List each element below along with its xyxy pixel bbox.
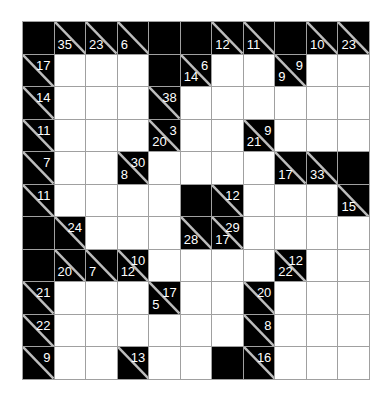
entry-cell[interactable] bbox=[275, 282, 306, 314]
entry-cell[interactable] bbox=[307, 282, 338, 314]
entry-cell[interactable] bbox=[212, 250, 243, 282]
entry-cell[interactable] bbox=[212, 315, 243, 347]
across-sum: 16 bbox=[257, 351, 271, 364]
entry-cell[interactable] bbox=[181, 282, 212, 314]
entry-cell[interactable] bbox=[55, 55, 86, 87]
entry-cell[interactable] bbox=[149, 152, 180, 184]
block-cell bbox=[149, 55, 180, 87]
clue-cell: 11 bbox=[23, 120, 54, 152]
across-sum: 9 bbox=[296, 59, 303, 72]
entry-cell[interactable] bbox=[181, 250, 212, 282]
kakuro-board: 3523612111023176149914381132092173081733… bbox=[22, 21, 370, 380]
entry-cell[interactable] bbox=[275, 347, 306, 379]
clue-cell: 11 bbox=[23, 185, 54, 217]
entry-cell[interactable] bbox=[212, 152, 243, 184]
entry-cell[interactable] bbox=[307, 87, 338, 119]
entry-cell[interactable] bbox=[307, 315, 338, 347]
entry-cell[interactable] bbox=[212, 282, 243, 314]
entry-cell[interactable] bbox=[86, 87, 117, 119]
entry-cell[interactable] bbox=[55, 347, 86, 379]
down-sum: 20 bbox=[152, 135, 166, 148]
entry-cell[interactable] bbox=[244, 152, 275, 184]
clue-cell: 10 bbox=[307, 22, 338, 54]
entry-cell[interactable] bbox=[275, 217, 306, 249]
entry-cell[interactable] bbox=[181, 87, 212, 119]
entry-cell[interactable] bbox=[118, 87, 149, 119]
entry-cell[interactable] bbox=[338, 315, 369, 347]
entry-cell[interactable] bbox=[118, 185, 149, 217]
clue-cell: 17 bbox=[275, 152, 306, 184]
clue-cell: 15 bbox=[338, 185, 369, 217]
entry-cell[interactable] bbox=[275, 185, 306, 217]
entry-cell[interactable] bbox=[307, 250, 338, 282]
across-sum: 20 bbox=[257, 286, 271, 299]
entry-cell[interactable] bbox=[55, 282, 86, 314]
entry-cell[interactable] bbox=[338, 87, 369, 119]
down-sum: 15 bbox=[341, 200, 355, 213]
entry-cell[interactable] bbox=[338, 347, 369, 379]
entry-cell[interactable] bbox=[149, 217, 180, 249]
clue-cell: 7 bbox=[23, 152, 54, 184]
entry-cell[interactable] bbox=[149, 347, 180, 379]
entry-cell[interactable] bbox=[181, 152, 212, 184]
entry-cell[interactable] bbox=[275, 315, 306, 347]
entry-cell[interactable] bbox=[149, 250, 180, 282]
entry-cell[interactable] bbox=[338, 282, 369, 314]
entry-cell[interactable] bbox=[118, 120, 149, 152]
entry-cell[interactable] bbox=[212, 87, 243, 119]
entry-cell[interactable] bbox=[118, 55, 149, 87]
entry-cell[interactable] bbox=[307, 185, 338, 217]
entry-cell[interactable] bbox=[307, 347, 338, 379]
down-sum: 20 bbox=[58, 265, 72, 278]
entry-cell[interactable] bbox=[55, 185, 86, 217]
entry-cell[interactable] bbox=[86, 217, 117, 249]
entry-cell[interactable] bbox=[307, 120, 338, 152]
clue-cell: 11 bbox=[244, 22, 275, 54]
entry-cell[interactable] bbox=[307, 217, 338, 249]
entry-cell[interactable] bbox=[118, 217, 149, 249]
entry-cell[interactable] bbox=[244, 185, 275, 217]
entry-cell[interactable] bbox=[86, 185, 117, 217]
entry-cell[interactable] bbox=[244, 250, 275, 282]
across-sum: 24 bbox=[68, 221, 82, 234]
entry-cell[interactable] bbox=[86, 315, 117, 347]
entry-cell[interactable] bbox=[55, 152, 86, 184]
clue-cell: 921 bbox=[244, 120, 275, 152]
across-sum: 17 bbox=[36, 59, 50, 72]
entry-cell[interactable] bbox=[338, 55, 369, 87]
across-sum: 11 bbox=[37, 189, 51, 202]
clue-cell: 8 bbox=[244, 315, 275, 347]
down-sum: 6 bbox=[121, 38, 128, 51]
entry-cell[interactable] bbox=[212, 55, 243, 87]
across-sum: 14 bbox=[36, 91, 50, 104]
across-sum: 9 bbox=[43, 351, 50, 364]
entry-cell[interactable] bbox=[275, 87, 306, 119]
entry-cell[interactable] bbox=[86, 120, 117, 152]
across-sum: 8 bbox=[264, 319, 271, 332]
entry-cell[interactable] bbox=[181, 315, 212, 347]
entry-cell[interactable] bbox=[55, 315, 86, 347]
entry-cell[interactable] bbox=[86, 55, 117, 87]
entry-cell[interactable] bbox=[244, 217, 275, 249]
entry-cell[interactable] bbox=[149, 185, 180, 217]
entry-cell[interactable] bbox=[118, 282, 149, 314]
block-cell bbox=[338, 152, 369, 184]
entry-cell[interactable] bbox=[212, 120, 243, 152]
entry-cell[interactable] bbox=[338, 217, 369, 249]
entry-cell[interactable] bbox=[86, 282, 117, 314]
down-sum: 17 bbox=[278, 168, 292, 181]
entry-cell[interactable] bbox=[338, 250, 369, 282]
entry-cell[interactable] bbox=[181, 347, 212, 379]
entry-cell[interactable] bbox=[118, 315, 149, 347]
entry-cell[interactable] bbox=[55, 120, 86, 152]
entry-cell[interactable] bbox=[149, 315, 180, 347]
entry-cell[interactable] bbox=[55, 87, 86, 119]
entry-cell[interactable] bbox=[244, 55, 275, 87]
entry-cell[interactable] bbox=[275, 120, 306, 152]
entry-cell[interactable] bbox=[181, 120, 212, 152]
entry-cell[interactable] bbox=[244, 87, 275, 119]
entry-cell[interactable] bbox=[307, 55, 338, 87]
entry-cell[interactable] bbox=[86, 152, 117, 184]
entry-cell[interactable] bbox=[86, 347, 117, 379]
entry-cell[interactable] bbox=[338, 120, 369, 152]
